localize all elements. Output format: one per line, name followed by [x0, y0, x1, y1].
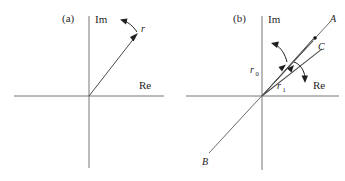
panel-a-vector-r: [89, 33, 138, 96]
panel-b: (b) Im Re: [186, 12, 339, 170]
panel-b-vector-converging-stroke: [262, 41, 313, 96]
panel-b-label: (b): [233, 12, 246, 25]
panel-a-label: (a): [62, 12, 75, 25]
panel-a-vector-r-shaft: [89, 37, 135, 96]
panel-b-rotation-arrow-r0: [271, 42, 287, 63]
panel-b-imaginary-axis-label: Im: [268, 13, 281, 25]
panel-a-real-axis-label: Re: [139, 79, 151, 91]
panel-b-rotation-arrow-r1-head: [302, 76, 309, 84]
panel-b-vector-r0-label-subscript: 0: [256, 70, 259, 77]
panel-b-point-C-dot: [313, 36, 317, 40]
panel-a-vector-r-label: r: [141, 23, 145, 34]
panel-b-vector-r0-label-base: r: [250, 64, 254, 75]
panel-a: (a) Im Re r: [14, 12, 164, 168]
figure-root: (a) Im Re r (b): [0, 0, 345, 181]
panel-a-rotation-arrow: [120, 19, 137, 33]
panel-b-point-C-label: C: [318, 41, 325, 52]
panel-b-rotation-arrow-r0-head: [271, 42, 279, 49]
panel-b-point-A-label: A: [329, 13, 337, 24]
panel-b-vector-r1-label-subscript: 1: [283, 86, 286, 93]
panel-a-vector-r-arrowhead: [130, 33, 138, 42]
panel-b-point-B-label: B: [202, 156, 208, 167]
panel-b-rotation-arrow-r0-curve: [276, 45, 287, 62]
complex-plane-figure: (a) Im Re r (b): [0, 0, 345, 181]
panel-a-rotation-arrow-head: [120, 19, 128, 25]
panel-b-real-axis-label: Re: [313, 79, 325, 91]
panel-b-vector-r1-shaft: [262, 41, 322, 104]
panel-a-imaginary-axis-label: Im: [95, 13, 108, 25]
panel-b-vector-r1-label: r 1: [277, 80, 286, 93]
panel-b-vector-r0-label: r 0: [250, 64, 259, 77]
panel-b-vector-r1-label-base: r: [277, 80, 281, 91]
panel-b-vector-r1: [262, 41, 322, 104]
